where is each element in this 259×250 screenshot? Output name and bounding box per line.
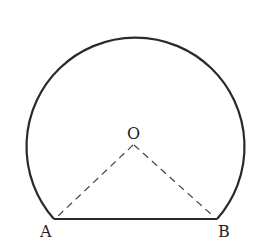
label-o: O [127,124,140,143]
radius-oa [56,145,133,218]
label-a: A [39,222,52,241]
label-b: B [218,222,230,241]
radius-ob [134,145,212,215]
geometry-diagram: O A B [0,0,259,250]
